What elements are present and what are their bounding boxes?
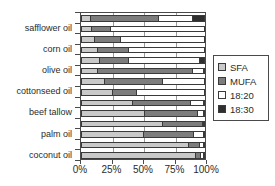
x-axis-label: 25% [101, 164, 121, 175]
bar-segment-mufa [145, 110, 197, 117]
bar-segment-mufa [92, 26, 111, 33]
bar-segment-sfa [81, 100, 133, 107]
bar-segment-mufa [100, 57, 130, 64]
bar-row [81, 89, 205, 96]
category-label: corn oil [0, 44, 72, 54]
bar-segment-1830 [204, 142, 205, 149]
bar-segment-1820 [111, 26, 205, 33]
bar-segment-1820 [137, 89, 205, 96]
bar-row [81, 121, 205, 128]
bar-segment-mufa [105, 78, 163, 85]
bar-segment-sfa [81, 15, 91, 22]
legend-item-mufa[interactable]: MUFA [218, 74, 265, 88]
bar-segment-sfa [81, 152, 196, 159]
category-axis-labels: safflower oilcorn oilolive oilcottonseed… [0, 12, 76, 160]
x-axis-label: 75% [164, 164, 184, 175]
bar-row [81, 131, 205, 138]
bar-segment-1830 [193, 15, 205, 22]
stacked-bar-chart: safflower oilcorn oilolive oilcottonseed… [0, 0, 275, 186]
bar-segment-1820 [129, 57, 200, 64]
bar-segment-1820 [191, 100, 203, 107]
x-axis-label: 0% [73, 164, 87, 175]
bar-row [81, 100, 205, 107]
bar-segment-mufa [133, 100, 191, 107]
bar-segment-sfa [81, 78, 105, 85]
bar-segment-1820 [163, 78, 205, 85]
bar-row [81, 110, 205, 117]
bar-row [81, 142, 205, 149]
legend-item-1820[interactable]: 18:20 [218, 88, 265, 102]
bar-segment-sfa [81, 68, 98, 75]
bar-row [81, 26, 205, 33]
bar-segment-sfa [81, 110, 145, 117]
bar-segment-1830 [200, 57, 205, 64]
bar-segment-mufa [113, 89, 137, 96]
bar-segment-sfa [81, 36, 95, 43]
bar-segment-sfa [81, 131, 144, 138]
legend-item-sfa[interactable]: SFA [218, 60, 265, 74]
bar-segment-mufa [144, 131, 194, 138]
bar-series-group [81, 13, 205, 159]
legend-label: SFA [230, 62, 248, 73]
bar-segment-1830 [204, 121, 205, 128]
bar-segment-mufa [98, 47, 129, 54]
bar-segment-mufa [189, 142, 200, 149]
legend-swatch-icon [218, 63, 226, 71]
bar-segment-sfa [81, 142, 189, 149]
legend-label: 18:20 [230, 90, 254, 101]
bar-segment-1820 [193, 68, 204, 75]
chart-legend: SFAMUFA18:2018:30 [213, 55, 269, 121]
legend-label: 18:30 [230, 104, 254, 115]
bar-segment-mufa [95, 36, 121, 43]
bar-row [81, 47, 205, 54]
bar-segment-1820 [159, 15, 192, 22]
category-label: olive oil [0, 65, 72, 75]
x-axis-label: 100% [193, 164, 219, 175]
bar-segment-sfa [81, 89, 113, 96]
plot-area [80, 12, 206, 160]
bar-row [81, 15, 205, 22]
bar-row [81, 57, 205, 64]
bar-segment-sfa [81, 121, 163, 128]
legend-swatch-icon [218, 77, 226, 85]
bar-segment-1830 [204, 110, 205, 117]
category-label: safflower oil [0, 23, 72, 33]
bar-segment-1830 [204, 152, 205, 159]
legend-swatch-icon [218, 105, 226, 113]
bar-segment-sfa [81, 47, 98, 54]
bar-row [81, 78, 205, 85]
bar-segment-1830 [204, 68, 205, 75]
legend-item-1830[interactable]: 18:30 [218, 102, 265, 116]
bar-segment-1820 [129, 47, 205, 54]
bar-segment-mufa [91, 15, 159, 22]
category-label: beef tallow [0, 107, 72, 117]
bar-segment-1820 [121, 36, 205, 43]
category-label: cottonseed oil [0, 86, 72, 96]
bar-segment-1820 [194, 131, 204, 138]
bar-segment-1830 [204, 131, 205, 138]
bar-row [81, 68, 205, 75]
category-label: palm oil [0, 129, 72, 139]
bar-segment-mufa [98, 68, 192, 75]
legend-label: MUFA [230, 76, 256, 87]
bar-row [81, 152, 205, 159]
x-axis-label: 50% [133, 164, 153, 175]
category-label: coconut oil [0, 150, 72, 160]
bar-segment-sfa [81, 57, 100, 64]
bar-row [81, 36, 205, 43]
x-axis-labels: 0%25%50%75%100% [60, 164, 235, 180]
legend-swatch-icon [218, 91, 226, 99]
bar-segment-sfa [81, 26, 92, 33]
bar-segment-1830 [204, 100, 205, 107]
bar-segment-mufa [163, 121, 203, 128]
